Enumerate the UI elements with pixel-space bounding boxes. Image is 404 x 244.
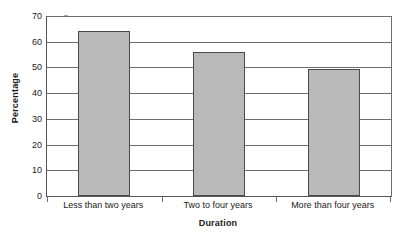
x-axis-tick-label: Two to four years	[161, 200, 276, 210]
y-axis-tick-label: 60	[32, 37, 42, 47]
bar[interactable]	[193, 52, 245, 196]
bar[interactable]	[308, 69, 360, 196]
bar[interactable]	[78, 31, 130, 196]
y-axis-title-text: Percentage	[10, 73, 20, 124]
plot-area	[46, 16, 391, 197]
y-axis-tick-label: 40	[32, 88, 42, 98]
y-axis-tick-label: 50	[32, 62, 42, 72]
y-axis-tick-labels: 010203040506070	[22, 16, 42, 196]
x-axis-tick-label: More than four years	[275, 200, 390, 210]
y-axis-tick-label: 30	[32, 114, 42, 124]
y-axis-tick-label: 70	[32, 11, 42, 21]
category-tick-mark	[390, 197, 391, 202]
x-axis-title: Duration	[46, 218, 390, 228]
x-axis-tick-label: Less than two years	[46, 200, 161, 210]
y-axis-tick-label: 10	[32, 165, 42, 175]
bars-layer	[47, 16, 391, 196]
bar-chart-figure: Percentage 010203040506070 Less than two…	[0, 0, 404, 244]
plot-right-border	[391, 16, 392, 197]
y-axis-tick-label: 0	[37, 191, 42, 201]
x-axis-tick-labels: Less than two yearsTwo to four yearsMore…	[46, 200, 390, 214]
y-axis-tick-label: 20	[32, 140, 42, 150]
